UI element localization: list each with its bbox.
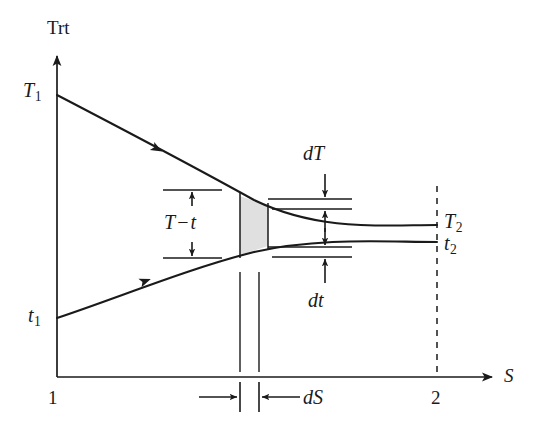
dS-symbol: S [313,386,323,408]
dT-prefix: d [303,142,313,164]
axis-group [57,56,492,377]
cold-end-subscript: 2 [450,242,457,257]
x-tick-label-1: 1 [48,388,58,407]
hot-stream-start-label: T1 [23,80,41,100]
hot-end-subscript: 2 [456,220,463,235]
hot-start-subscript: 1 [35,89,42,104]
cold-stream-end-label: t2 [444,233,456,253]
entropy-differential-measure [199,382,300,412]
x-axis-label: S [504,366,514,385]
diagram-canvas [0,0,559,442]
dt-symbol: t [318,289,324,311]
cold-start-symbol: t [28,304,34,326]
x-tick-label-2: 2 [431,388,441,407]
dT-symbol: T [313,142,324,164]
cold-start-subscript: 1 [34,314,41,329]
hot-start-symbol: T [23,79,34,101]
cold-stream-curve [57,241,437,318]
cold-differential-measure [268,228,352,283]
temp-diff-operator: − [175,211,190,233]
temperature-difference-label: T−t [164,212,196,232]
dt-prefix: d [308,289,318,311]
cold-differential-label: dt [308,290,324,310]
hot-end-symbol: T [444,210,455,232]
cold-end-symbol: t [444,232,450,254]
entropy-differential-label: dS [303,387,323,407]
hot-differential-label: dT [303,143,324,163]
temp-diff-first-symbol: T [164,211,175,233]
cold-stream-start-label: t1 [28,305,40,325]
temp-diff-second-symbol: t [190,211,196,233]
figure-root: Trt S 1 2 T1 t1 T2 t2 T−t dT dt dS [0,0,559,442]
hot-stream-end-label: T2 [444,211,462,231]
y-axis-label: Trt [47,18,70,37]
dS-prefix: d [303,386,313,408]
